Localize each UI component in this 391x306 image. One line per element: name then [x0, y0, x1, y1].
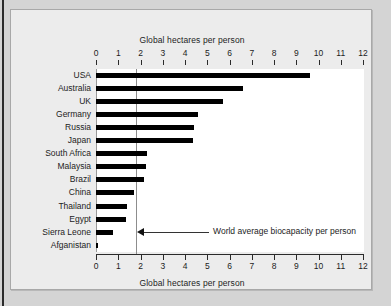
axis-tick-mark: [230, 60, 231, 65]
category-label-uk: UK: [11, 95, 91, 108]
bar-row: South Africa: [11, 147, 373, 160]
axis-tick-label: 5: [198, 48, 216, 58]
chart-figure-frame: Global hectares per person 0123456789101…: [10, 9, 372, 290]
axis-tick-label: 11: [332, 261, 350, 271]
bar-rows-container: USAAustraliaUKGermanyRussiaJapanSouth Af…: [11, 69, 373, 252]
axis-tick-label: 12: [354, 261, 372, 271]
bar-usa: [96, 73, 310, 78]
axis-tick-mark: [230, 255, 231, 260]
axis-tick-mark: [274, 60, 275, 65]
category-label-usa: USA: [11, 69, 91, 82]
axis-tick-mark: [341, 255, 342, 260]
axis-tick-label: 3: [154, 261, 172, 271]
axis-tick-label: 6: [221, 261, 239, 271]
bar-row: Afganistan: [11, 239, 373, 252]
axis-tick-label: 9: [287, 261, 305, 271]
axis-tick-mark: [118, 255, 119, 260]
axis-tick-label: 10: [310, 48, 328, 58]
axis-tick-mark: [341, 60, 342, 65]
axis-tick-mark: [163, 60, 164, 65]
axis-tick-label: 3: [154, 48, 172, 58]
axis-tick-mark: [252, 255, 253, 260]
category-label-australia: Australia: [11, 82, 91, 95]
axis-tick-mark: [252, 60, 253, 65]
bar-row: Japan: [11, 134, 373, 147]
category-label-egypt: Egypt: [11, 213, 91, 226]
axis-tick-label: 0: [87, 261, 105, 271]
category-label-south-africa: South Africa: [11, 147, 91, 160]
bar-brazil: [96, 177, 144, 182]
bottom-axis-scale: 0123456789101112: [96, 255, 363, 273]
axis-tick-label: 10: [310, 261, 328, 271]
bar-row: USA: [11, 69, 373, 82]
axis-tick-mark: [319, 255, 320, 260]
axis-tick-label: 8: [265, 48, 283, 58]
bar-uk: [96, 99, 223, 104]
axis-tick-label: 12: [354, 48, 372, 58]
bar-row: Russia: [11, 121, 373, 134]
bar-germany: [96, 112, 198, 117]
axis-tick-mark: [96, 255, 97, 260]
bar-row: Brazil: [11, 173, 373, 186]
bottom-axis-title: Global hectares per person: [11, 278, 373, 288]
axis-tick-label: 5: [198, 261, 216, 271]
axis-tick-label: 6: [221, 48, 239, 58]
axis-tick-mark: [185, 60, 186, 65]
axis-tick-mark: [296, 60, 297, 65]
top-axis-title: Global hectares per person: [11, 35, 373, 45]
axis-tick-mark: [296, 255, 297, 260]
axis-tick-label: 1: [109, 261, 127, 271]
axis-tick-label: 1: [109, 48, 127, 58]
category-label-brazil: Brazil: [11, 173, 91, 186]
bar-australia: [96, 86, 243, 91]
axis-tick-label: 11: [332, 48, 350, 58]
category-label-china: China: [11, 186, 91, 199]
axis-tick-label: 9: [287, 48, 305, 58]
top-axis-scale: 0123456789101112: [96, 48, 363, 66]
axis-tick-mark: [363, 60, 364, 65]
bar-row: Thailand: [11, 200, 373, 213]
axis-tick-mark: [363, 255, 364, 260]
category-label-russia: Russia: [11, 121, 91, 134]
bar-egypt: [96, 217, 126, 222]
bar-row: Egypt: [11, 213, 373, 226]
axis-tick-label: 7: [243, 48, 261, 58]
bar-china: [96, 190, 134, 195]
bar-row: Sierra Leone: [11, 226, 373, 239]
category-label-germany: Germany: [11, 108, 91, 121]
axis-tick-mark: [207, 255, 208, 260]
bar-row: China: [11, 186, 373, 199]
axis-tick-mark: [319, 60, 320, 65]
axis-tick-mark: [163, 255, 164, 260]
bar-afganistan: [96, 243, 98, 248]
axis-tick-mark: [141, 60, 142, 65]
bar-japan: [96, 138, 193, 143]
axis-tick-mark: [141, 255, 142, 260]
bar-row: UK: [11, 95, 373, 108]
axis-tick-label: 4: [176, 261, 194, 271]
axis-tick-mark: [96, 60, 97, 65]
page-left-edge-bar: [2, 0, 4, 306]
category-label-afganistan: Afganistan: [11, 239, 91, 252]
bar-row: Germany: [11, 108, 373, 121]
axis-tick-label: 7: [243, 261, 261, 271]
bar-sierra-leone: [96, 230, 113, 235]
axis-tick-mark: [118, 60, 119, 65]
axis-tick-mark: [207, 60, 208, 65]
axis-tick-label: 2: [132, 261, 150, 271]
bar-row: Australia: [11, 82, 373, 95]
bar-malaysia: [96, 164, 146, 169]
category-label-japan: Japan: [11, 134, 91, 147]
axis-tick-label: 2: [132, 48, 150, 58]
bar-thailand: [96, 204, 127, 209]
axis-tick-mark: [274, 255, 275, 260]
axis-tick-label: 8: [265, 261, 283, 271]
axis-tick-mark: [185, 255, 186, 260]
axis-tick-label: 0: [87, 48, 105, 58]
bar-row: Malaysia: [11, 160, 373, 173]
category-label-sierra-leone: Sierra Leone: [11, 226, 91, 239]
category-label-thailand: Thailand: [11, 200, 91, 213]
axis-tick-label: 4: [176, 48, 194, 58]
category-label-malaysia: Malaysia: [11, 160, 91, 173]
bar-russia: [96, 125, 194, 130]
